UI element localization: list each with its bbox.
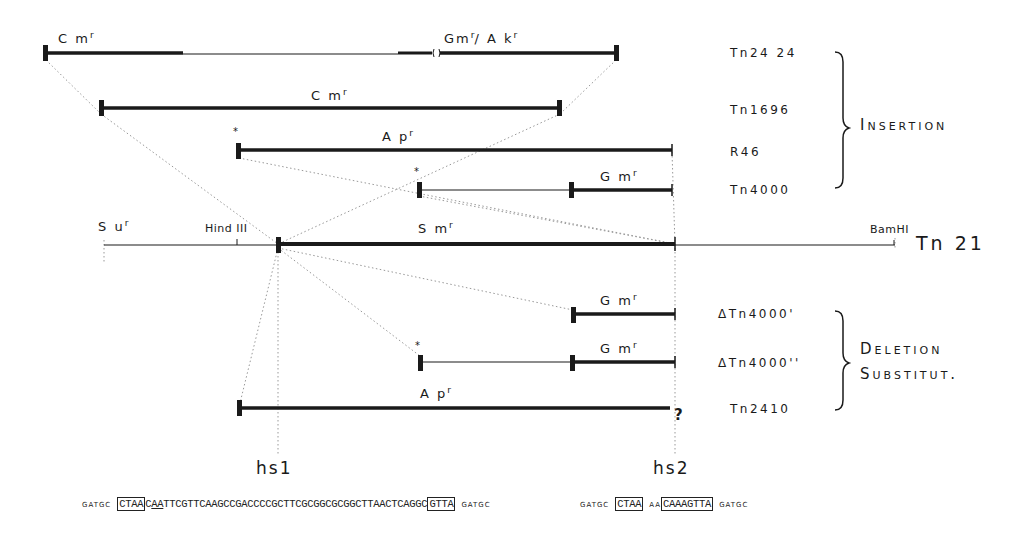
deletion-group-label: Deletion (860, 340, 942, 358)
bamhi-site-label: BamHI (870, 223, 909, 236)
name-r46: R46 (730, 145, 761, 159)
hs2-sequence: GATGC CTAA AACAAAGTTA GATGC (580, 498, 748, 510)
name-tn4000: Tn4000 (730, 183, 790, 197)
tn2410-ap-label: A pr (420, 385, 451, 401)
r46-star: * (233, 126, 240, 137)
substitution-group-label: Substitut. (860, 365, 958, 383)
delta-tn4000-double-prime-star: * (415, 340, 422, 351)
hindiii-site-label: Hind III (205, 222, 248, 235)
delta-tn4000-double-prime-gm-label: G mr (600, 340, 637, 356)
tn2424-cm-label: C mr (58, 30, 94, 46)
transposon-map (0, 0, 1017, 542)
tn2424-bar (43, 45, 619, 61)
r46-bar (236, 143, 672, 159)
unknown-end-mark: ? (674, 406, 683, 424)
tn2424-gm-ak-label: Gmr/ A kr (444, 30, 517, 46)
delta-tn4000-prime-bar (571, 307, 675, 323)
name-tn2424: Tn24 24 (730, 46, 797, 60)
tn4000-star: * (414, 166, 421, 177)
hotspot-hs2-label: hs2 (653, 458, 689, 478)
hs1-sequence: GATGC CTAACAATTCGTTCAAGCCGACCCCGCTTCGCGG… (82, 498, 491, 510)
insertion-group-label: Insertion (860, 116, 947, 134)
tn1696-cm-label: C mr (311, 87, 347, 103)
su-label: S ur (98, 218, 128, 234)
tn21-bar (104, 237, 895, 253)
name-tn2410: Tn2410 (730, 402, 790, 416)
delta-tn4000-prime-gm-label: G mr (600, 292, 637, 308)
r46-ap-label: A pr (382, 128, 413, 144)
name-delta-tn4000-prime: ΔTn4000' (718, 307, 795, 321)
tn4000-gm-label: G mr (600, 168, 637, 184)
tn21-label: Tn 21 (916, 232, 985, 254)
sm-label: S mr (418, 220, 453, 236)
name-tn1696: Tn1696 (730, 103, 790, 117)
deletion-brace (835, 311, 849, 410)
dotted-connectors (46, 60, 895, 455)
tn2410-bar (237, 400, 670, 416)
insertion-brace (835, 52, 849, 188)
delta-tn4000-double-prime-bar (418, 355, 675, 371)
name-delta-tn4000-double-prime: ΔTn4000'' (718, 356, 801, 370)
tn4000-bar (417, 182, 672, 198)
hotspot-hs1-label: hs1 (256, 458, 292, 478)
